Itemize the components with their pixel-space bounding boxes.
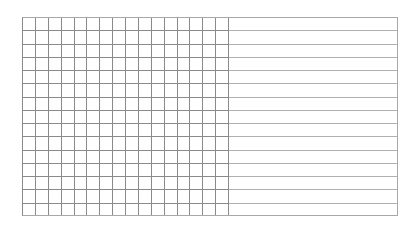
table-cell xyxy=(190,164,202,176)
table-cell-wide xyxy=(229,45,397,57)
table-cell xyxy=(126,151,138,163)
table-cell xyxy=(100,84,112,96)
table-cell xyxy=(126,177,138,189)
table-cell xyxy=(100,111,112,123)
table-cell xyxy=(152,58,164,70)
table-cell xyxy=(100,204,112,216)
table-cell xyxy=(190,111,202,123)
table-cell xyxy=(139,58,151,70)
table-cell xyxy=(36,18,48,30)
table-cell xyxy=(139,18,151,30)
table-cell xyxy=(49,204,61,216)
table-cell xyxy=(62,124,74,136)
table-cell xyxy=(178,84,190,96)
table-cell xyxy=(62,58,74,70)
table-cell xyxy=(23,177,35,189)
table-cell xyxy=(62,177,74,189)
blank-table xyxy=(22,17,398,216)
table-cell-wide xyxy=(229,18,397,30)
table-cell xyxy=(190,45,202,57)
table-cell xyxy=(178,98,190,110)
table-cell xyxy=(126,18,138,30)
table-cell xyxy=(87,31,99,43)
table-cell xyxy=(87,177,99,189)
table-cell xyxy=(152,204,164,216)
table-cell xyxy=(190,177,202,189)
table-cell xyxy=(36,58,48,70)
table-cell xyxy=(126,164,138,176)
table-cell xyxy=(139,124,151,136)
table-cell xyxy=(126,45,138,57)
table-cell xyxy=(62,137,74,149)
table-cell xyxy=(23,18,35,30)
table-cell xyxy=(100,18,112,30)
table-cell xyxy=(203,18,215,30)
table-cell xyxy=(152,190,164,202)
table-cell xyxy=(49,137,61,149)
table-cell xyxy=(126,137,138,149)
table-cell xyxy=(100,45,112,57)
table-cell xyxy=(49,98,61,110)
table-cell-wide xyxy=(229,151,397,163)
table-cell xyxy=(100,137,112,149)
table-cell xyxy=(49,111,61,123)
table-cell xyxy=(216,84,228,96)
table-cell xyxy=(113,190,125,202)
table-cell xyxy=(113,45,125,57)
table-cell-wide xyxy=(229,84,397,96)
table-cell xyxy=(178,204,190,216)
table-cell-wide xyxy=(229,124,397,136)
table-cell xyxy=(139,31,151,43)
table-cell xyxy=(75,164,87,176)
table-cell xyxy=(152,45,164,57)
table-cell xyxy=(165,45,177,57)
table-cell xyxy=(100,190,112,202)
narrow-columns-region xyxy=(23,18,229,215)
table-cell xyxy=(139,164,151,176)
table-cell xyxy=(139,84,151,96)
table-cell xyxy=(216,137,228,149)
table-cell xyxy=(178,71,190,83)
table-cell xyxy=(113,31,125,43)
table-cell xyxy=(203,111,215,123)
table-cell xyxy=(165,31,177,43)
table-cell xyxy=(178,190,190,202)
table-cell xyxy=(113,164,125,176)
table-cell xyxy=(75,177,87,189)
table-cell xyxy=(62,31,74,43)
table-cell xyxy=(62,164,74,176)
table-cell xyxy=(203,31,215,43)
table-cell xyxy=(62,98,74,110)
table-cell xyxy=(203,124,215,136)
table-cell xyxy=(152,137,164,149)
table-cell xyxy=(113,177,125,189)
table-cell xyxy=(165,111,177,123)
table-cell xyxy=(36,190,48,202)
table-cell xyxy=(165,84,177,96)
table-cell xyxy=(139,137,151,149)
table-cell-wide xyxy=(229,31,397,43)
table-cell xyxy=(87,98,99,110)
table-cell xyxy=(216,111,228,123)
table-cell xyxy=(216,204,228,216)
table-cell xyxy=(216,98,228,110)
table-cell-wide xyxy=(229,204,397,216)
table-cell xyxy=(87,124,99,136)
table-cell xyxy=(113,18,125,30)
table-cell xyxy=(87,204,99,216)
table-cell xyxy=(87,137,99,149)
wide-column-region xyxy=(229,18,397,215)
table-cell xyxy=(165,58,177,70)
table-cell xyxy=(203,98,215,110)
table-cell xyxy=(190,18,202,30)
table-cell xyxy=(75,190,87,202)
table-cell xyxy=(165,177,177,189)
table-cell xyxy=(178,18,190,30)
table-cell xyxy=(49,18,61,30)
table-cell xyxy=(36,98,48,110)
table-cell xyxy=(36,45,48,57)
table-cell xyxy=(216,164,228,176)
table-cell xyxy=(49,45,61,57)
table-cell xyxy=(152,177,164,189)
table-cell xyxy=(113,71,125,83)
